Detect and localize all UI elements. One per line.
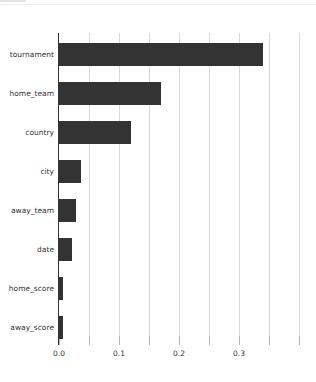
top-border-line [0, 4, 316, 5]
gridline [269, 33, 270, 343]
bar-country [59, 121, 131, 144]
bar-tournament [59, 43, 263, 66]
x-tick-label-0.0: 0.0 [44, 349, 74, 358]
y-label-home_team: home_team [0, 89, 54, 98]
gridline [119, 33, 120, 343]
gridline [149, 33, 150, 343]
y-label-away_score: away_score [0, 323, 54, 332]
gridline [179, 33, 180, 343]
x-tick-label-0.3: 0.3 [224, 349, 254, 358]
top-left-artifact [0, 0, 26, 2]
screenshot-root: tournamenthome_teamcountrycityaway_teamd… [0, 0, 316, 382]
x-tick [89, 336, 90, 345]
feature-importance-chart [59, 33, 302, 345]
gridline [299, 33, 300, 343]
gridline [239, 33, 240, 343]
x-tick-label-0.2: 0.2 [164, 349, 194, 358]
y-label-tournament: tournament [0, 50, 54, 59]
x-tick [179, 336, 180, 345]
y-label-city: city [0, 167, 54, 176]
y-label-date: date [0, 245, 54, 254]
bar-date [59, 238, 72, 261]
bar-home_team [59, 82, 161, 105]
y-label-away_team: away_team [0, 206, 54, 215]
bar-away_team [59, 199, 76, 222]
gridline [209, 33, 210, 343]
y-label-home_score: home_score [0, 284, 54, 293]
x-tick [239, 336, 240, 345]
x-tick [149, 336, 150, 345]
gridline [89, 33, 90, 343]
bar-away_score [59, 316, 63, 339]
x-tick [209, 336, 210, 345]
y-label-country: country [0, 128, 54, 137]
bar-home_score [59, 277, 63, 300]
bar-city [59, 160, 81, 183]
x-tick [299, 336, 300, 345]
x-tick [119, 336, 120, 345]
x-tick [269, 336, 270, 345]
x-tick-label-0.1: 0.1 [104, 349, 134, 358]
